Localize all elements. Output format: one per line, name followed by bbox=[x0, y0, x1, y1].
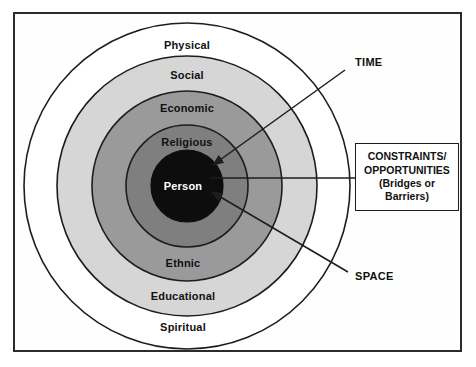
constraints-opportunities-box: CONSTRAINTS/ OPPORTUNITIES (Bridges or B… bbox=[355, 143, 459, 211]
time-label: TIME bbox=[355, 56, 382, 68]
ring-label-spiritual: Spiritual bbox=[160, 321, 206, 333]
ring-label-physical: Physical bbox=[164, 39, 210, 51]
constraints-line-3: (Bridges or bbox=[379, 177, 435, 190]
ring-label-economic: Economic bbox=[160, 102, 214, 114]
ring-label-religious: Religious bbox=[161, 136, 212, 148]
ring-label-ethnic: Ethnic bbox=[166, 257, 201, 269]
ring-label-social: Social bbox=[170, 69, 204, 81]
constraints-line-1: CONSTRAINTS/ bbox=[368, 150, 447, 163]
constraints-line-4: Barriers) bbox=[385, 190, 429, 203]
constraints-line-2: OPPORTUNITIES bbox=[364, 164, 450, 177]
space-label: SPACE bbox=[355, 270, 394, 282]
diagram-canvas: Physical Social Economic Religious Perso… bbox=[0, 0, 476, 367]
ring-label-educational: Educational bbox=[151, 290, 216, 302]
ring-label-person: Person bbox=[164, 180, 203, 192]
